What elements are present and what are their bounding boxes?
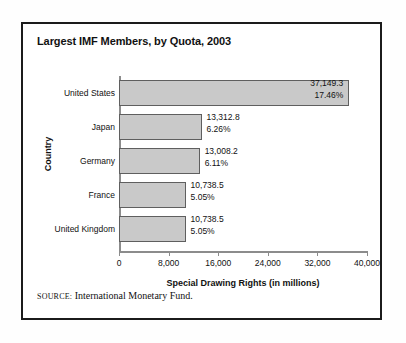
bar [119,114,202,140]
bar-percent-text: 6.11% [205,158,238,170]
figure-root: Largest IMF Members, by Quota, 2003 Coun… [0,0,406,343]
bar-value-text: 13,008.2 [205,146,238,158]
bar-value-label: 10,738.55.05% [191,180,224,203]
bar-row: 13,312.86.26% [119,110,367,144]
x-tick-label: 32,000 [304,258,330,268]
bar-percent-text: 5.05% [191,226,224,238]
bar-percent-text: 17.46% [287,90,343,102]
category-label-united-kingdom: United Kingdom [27,212,115,246]
category-label-text: Germany [27,156,115,166]
bar-value-text: 10,738.5 [191,214,224,226]
bar-row: 10,738.55.05% [119,178,367,212]
bar-value-label: 13,312.86.26% [207,112,240,135]
bar-value-label: 13,008.26.11% [205,146,238,169]
bar [119,216,186,242]
category-label-united-states: United States [27,76,115,110]
x-tick-mark [169,251,170,256]
x-tick-mark [317,251,318,256]
bar-row: 10,738.55.05% [119,212,367,246]
x-axis-title: Special Drawing Rights (in millions) [119,278,367,288]
bar-value-label: 37,149.317.46% [287,78,343,101]
bar [119,148,200,174]
bar-value-text: 10,738.5 [191,180,224,192]
source-text: International Monetary Fund. [75,290,193,301]
category-label-text: United Kingdom [27,224,115,234]
category-label-japan: Japan [27,110,115,144]
plot-area: Country 37,149.317.46%13,312.86.26%13,00… [23,24,380,318]
bar-row: 37,149.317.46% [119,76,367,110]
category-label-text: United States [27,88,115,98]
x-tick-label: 24,000 [255,258,281,268]
source-label: SOURCE: [37,292,72,301]
category-label-text: France [27,190,115,200]
x-tick-mark [218,251,219,256]
source-note: SOURCE: International Monetary Fund. [37,290,193,301]
bar-value-label: 10,738.55.05% [191,214,224,237]
bar-percent-text: 6.26% [207,124,240,136]
figure-frame: Largest IMF Members, by Quota, 2003 Coun… [21,22,382,320]
x-tick-label: 8,000 [158,258,179,268]
x-tick-mark [268,251,269,256]
category-label-france: France [27,178,115,212]
category-label-germany: Germany [27,144,115,178]
x-tick-label: 40,000 [354,258,380,268]
bar-value-text: 13,312.8 [207,112,240,124]
bar-percent-text: 5.05% [191,192,224,204]
category-label-text: Japan [27,122,115,132]
x-tick-label: 16,000 [205,258,231,268]
x-tick-mark [119,251,120,256]
bar-row: 13,008.26.11% [119,144,367,178]
x-axis-line [119,251,367,253]
x-tick-mark [367,251,368,256]
bar-value-text: 37,149.3 [287,78,343,90]
bar [119,182,186,208]
x-tick-label: 0 [117,258,122,268]
